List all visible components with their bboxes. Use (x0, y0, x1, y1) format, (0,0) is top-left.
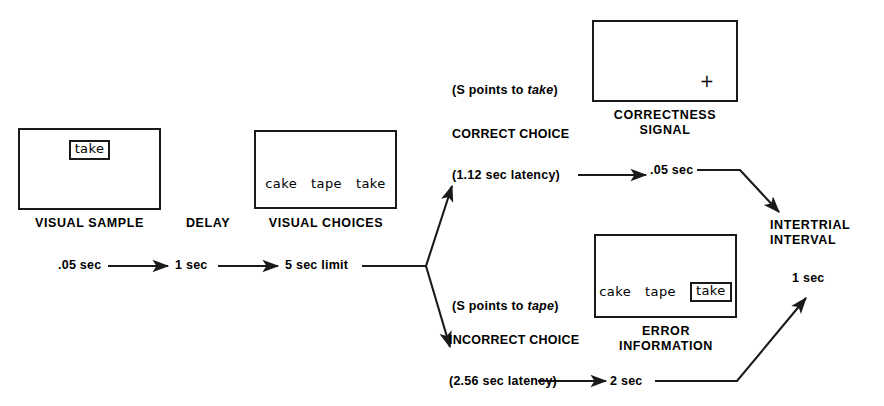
incorrect-response-note-suffix: ) (554, 299, 558, 313)
timing-sample-duration: .05 sec (58, 259, 101, 273)
visual-choices-word-1: cake (265, 176, 297, 191)
correctness-signal-screen: + (592, 20, 738, 102)
timing-intertrial-duration: 1 sec (792, 272, 825, 286)
error-information-word-1: cake (599, 284, 631, 299)
error-information-caption: ERROR INFORMATION (586, 324, 746, 354)
incorrect-choice-label: INCORRECT CHOICE (449, 334, 579, 348)
intertrial-interval-label: INTERTRIAL INTERVAL (770, 218, 884, 248)
incorrect-response-note-prefix: (S points to (452, 299, 527, 313)
error-information-boxed-word: take (690, 282, 732, 302)
correct-response-note-suffix: ) (554, 83, 558, 97)
visual-choices-stimulus-row: cake tape take (256, 176, 395, 191)
correct-response-note: (S points to take) (452, 84, 558, 98)
visual-sample-caption: VISUAL SAMPLE (8, 216, 171, 231)
incorrect-response-note: (S points to tape) (452, 300, 559, 314)
correct-response-note-prefix: (S points to (452, 83, 527, 97)
arrow-signal-to-intertrial (697, 170, 779, 212)
visual-choices-word-3: take (356, 176, 386, 191)
arrow-fork-to-incorrect (426, 266, 450, 347)
visual-choices-caption: VISUAL CHOICES (246, 216, 406, 231)
procedure-flowchart-figure: take VISUAL SAMPLE DELAY cake tape take … (0, 0, 884, 406)
timing-delay-duration: 1 sec (175, 259, 208, 273)
error-information-screen: cake tape take (594, 234, 737, 318)
visual-choices-screen: cake tape take (254, 130, 397, 209)
visual-sample-stimulus-row: take (20, 140, 159, 160)
correct-response-note-word: take (527, 83, 553, 97)
correct-choice-label: CORRECT CHOICE (452, 128, 569, 142)
visual-sample-screen: take (18, 128, 161, 210)
delay-label: DELAY (163, 216, 253, 231)
correctness-signal-caption: CORRECTNESS SIGNAL (585, 108, 745, 138)
visual-choices-word-2: tape (311, 176, 342, 191)
incorrect-latency-label: (2.56 sec latency) (449, 375, 557, 389)
visual-sample-boxed-word: take (69, 140, 111, 160)
correctness-plus-mark: + (700, 73, 714, 90)
error-information-word-2: tape (645, 284, 676, 299)
incorrect-response-note-word: tape (527, 299, 554, 313)
arrow-fork-to-correct (426, 186, 452, 266)
correct-latency-label: (1.12 sec latency) (452, 169, 560, 183)
error-information-stimulus-row: cake tape take (596, 282, 735, 302)
timing-correctness-signal-duration: .05 sec (650, 164, 693, 178)
timing-choice-limit: 5 sec limit (285, 259, 348, 273)
timing-error-information-duration: 2 sec (610, 375, 643, 389)
